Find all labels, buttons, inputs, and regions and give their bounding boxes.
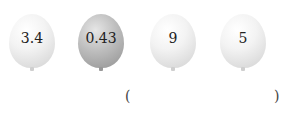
balloon-knot <box>99 67 103 71</box>
balloon-2: 0.43 <box>78 14 124 70</box>
balloon-value: 9 <box>150 30 196 46</box>
balloon-value: 0.43 <box>78 30 124 46</box>
balloon-3: 9 <box>150 14 196 70</box>
answer-open-paren: ( <box>125 88 130 104</box>
answer-blank[interactable] <box>135 88 265 104</box>
balloon-1: 3.4 <box>9 14 55 70</box>
balloon-value: 5 <box>220 30 266 46</box>
balloon-4: 5 <box>220 14 266 70</box>
balloon-knot <box>30 67 34 71</box>
answer-close-paren: ) <box>274 88 279 104</box>
balloon-value: 3.4 <box>9 30 55 46</box>
balloon-knot <box>171 67 175 71</box>
balloon-knot <box>241 67 245 71</box>
